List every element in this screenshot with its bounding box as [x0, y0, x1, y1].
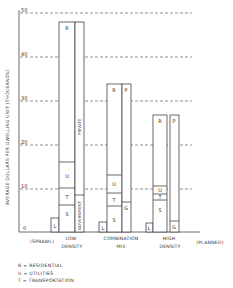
svg-text:L: L — [102, 225, 105, 231]
svg-text:MIX: MIX — [116, 244, 125, 249]
svg-text:G: G — [124, 205, 128, 211]
svg-text:DENSITY: DENSITY — [159, 244, 180, 249]
svg-text:30: 30 — [21, 95, 27, 101]
svg-text:R: R — [158, 118, 162, 124]
svg-text:R: R — [112, 87, 116, 93]
svg-text:L: L — [148, 225, 151, 231]
svg-text:COMBINATION: COMBINATION — [104, 236, 139, 241]
svg-text:U: U — [65, 173, 69, 179]
svg-text:DENSITY: DENSITY — [61, 244, 82, 249]
svg-text:P: P — [124, 87, 127, 93]
svg-text:LOW: LOW — [65, 236, 76, 241]
svg-text:0: 0 — [23, 225, 26, 231]
legend-residential: R = RESIDENTIAL — [18, 262, 74, 270]
svg-text:AVERAGE DOLLARS PER DWELLING U: AVERAGE DOLLARS PER DWELLING UNIT (THOUS… — [5, 70, 10, 205]
legend-utilities: U = UTILITIES — [18, 270, 74, 278]
svg-text:U: U — [112, 181, 116, 187]
svg-text:P: P — [172, 118, 175, 124]
stacked-bar-chart: 50 40 30 20 10 0 AVERAGE DOLLARS PER DWE… — [0, 0, 233, 288]
svg-text:S: S — [65, 211, 68, 217]
svg-text:GOVERNMENT: GOVERNMENT — [77, 201, 82, 230]
svg-text:20: 20 — [21, 139, 27, 145]
svg-text:(SPRAWL): (SPRAWL) — [30, 239, 54, 244]
svg-text:(PLANNED): (PLANNED) — [196, 240, 223, 245]
svg-text:R: R — [65, 25, 69, 31]
svg-text:L: L — [54, 223, 57, 229]
svg-text:PRIVATE: PRIVATE — [77, 118, 82, 135]
svg-text:50: 50 — [21, 7, 27, 13]
legend-transportation: T = TRANSPORTATION — [18, 277, 74, 285]
svg-text:G: G — [172, 224, 176, 230]
svg-text:U: U — [158, 187, 162, 193]
legend: R = RESIDENTIAL U = UTILITIES T = TRANSP… — [18, 262, 74, 285]
svg-text:S: S — [158, 207, 161, 213]
svg-text:40: 40 — [21, 51, 27, 57]
svg-text:S: S — [112, 217, 115, 223]
svg-text:10: 10 — [21, 183, 27, 189]
svg-text:HIGH: HIGH — [163, 236, 176, 241]
